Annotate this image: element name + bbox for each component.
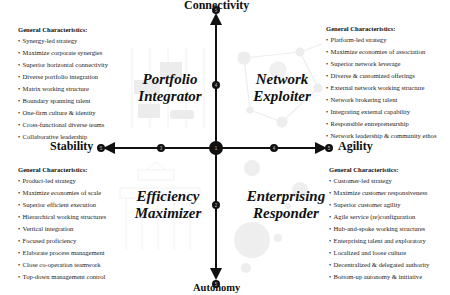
list-item: Top-down management control bbox=[18, 271, 106, 283]
list-item: Enterprising talent and exploratory bbox=[329, 235, 429, 247]
characteristics-heading: General Characteristics: bbox=[326, 23, 436, 34]
quadrant-title-portfolio-integrator: Portfolio Integrator bbox=[130, 71, 210, 105]
characteristics-list: Synergy-led strategy Maximize corporate … bbox=[18, 35, 108, 143]
list-item: Superior efficient execution bbox=[18, 199, 106, 211]
list-item: Maximize customer responsiveness bbox=[329, 187, 429, 199]
list-item: External network working structure bbox=[326, 82, 436, 94]
list-item: Product-led strategy bbox=[18, 175, 106, 187]
list-item: Maximize economies of association bbox=[326, 46, 436, 58]
characteristics-list: Product-led strategy Maximize economies … bbox=[18, 175, 106, 283]
characteristics-heading: General Characteristics: bbox=[18, 164, 106, 175]
list-item: Maximize economies of scale bbox=[18, 187, 106, 199]
axis-label-autonomy: Autonomy bbox=[193, 282, 240, 293]
list-item: Synergy-led strategy bbox=[18, 35, 108, 47]
list-item: Matrix working structure bbox=[18, 83, 108, 95]
quadrant-title-enterprising-responder: Enterprising Responder bbox=[236, 188, 336, 222]
list-item: Maximize corporate synergies bbox=[18, 47, 108, 59]
characteristics-portfolio-integrator: General Characteristics: Synergy-led str… bbox=[18, 24, 108, 143]
list-item: Boundary spanning talent bbox=[18, 95, 108, 107]
list-item: Diverse & customized offerings bbox=[326, 70, 436, 82]
list-item: Focused proficiency bbox=[18, 235, 106, 247]
list-item: Bottom-up autonomy & initiative bbox=[329, 271, 429, 283]
list-item: Localized and loose culture bbox=[329, 247, 429, 259]
list-item: Platform-led strategy bbox=[326, 34, 436, 46]
characteristics-heading: General Characteristics: bbox=[329, 164, 429, 175]
list-item: Network leadership & community ethos bbox=[326, 130, 436, 142]
list-item: Elaborate process management bbox=[18, 247, 106, 259]
characteristics-heading: General Characteristics: bbox=[18, 24, 108, 35]
list-item: Superior customer agility bbox=[329, 199, 429, 211]
list-item: Vertical integration bbox=[18, 223, 106, 235]
list-item: Integrating external capability bbox=[326, 106, 436, 118]
characteristics-efficiency-maximizer: General Characteristics: Product-led str… bbox=[18, 164, 106, 283]
characteristics-list: Customer-led strategy Maximize customer … bbox=[329, 175, 429, 283]
axis-label-connectivity: Connectivity bbox=[184, 0, 249, 13]
list-item: Hub-and-spoke working structures bbox=[329, 223, 429, 235]
list-item: Customer-led strategy bbox=[329, 175, 429, 187]
list-item: Close co-operation teamwork bbox=[18, 259, 106, 271]
characteristics-list: Platform-led strategy Maximize economies… bbox=[326, 34, 436, 142]
list-item: Decentralized & delegated authority bbox=[329, 259, 429, 271]
list-item: Agile service (re)configuration bbox=[329, 211, 429, 223]
characteristics-enterprising-responder: General Characteristics: Customer-led st… bbox=[329, 164, 429, 283]
characteristics-network-exploiter: General Characteristics: Platform-led st… bbox=[326, 23, 436, 142]
list-item: Network brokering talent bbox=[326, 94, 436, 106]
list-item: One-firm culture & identity bbox=[18, 107, 108, 119]
quadrant-title-network-exploiter: Network Exploiter bbox=[244, 71, 320, 105]
quadrant-title-efficiency-maximizer: Efficiency Maximizer bbox=[128, 188, 208, 222]
list-item: Superior network leverage bbox=[326, 58, 436, 70]
list-item: Collaborative leadership bbox=[18, 131, 108, 143]
list-item: Cross-functional diverse teams bbox=[18, 119, 108, 131]
list-item: Diverse portfolio integration bbox=[18, 71, 108, 83]
list-item: Responsible entrepreneurship bbox=[326, 118, 436, 130]
list-item: Hierarchical working structures bbox=[18, 211, 106, 223]
list-item: Superior horizontal connectivity bbox=[18, 59, 108, 71]
